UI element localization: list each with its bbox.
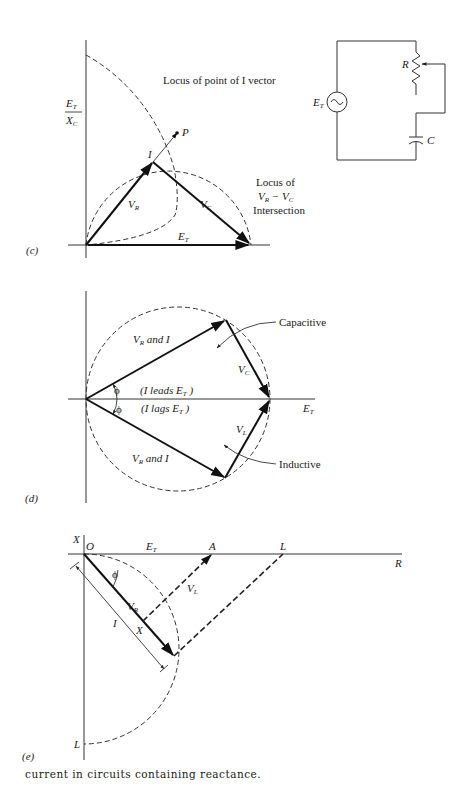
vr-vector [86,163,152,245]
panel-e: X O ET A L R ϕ VR VL I X L (e) [22,533,402,763]
locus-intersection-line1: Locus of [256,176,295,188]
panel-d: VR and I VR and I ϕ ϕ (I leads ET ) (I l… [25,291,326,505]
et-label: ET [302,402,315,416]
vl-label: VL [236,423,247,437]
et-label: ET [177,230,190,244]
resistor-label: R [401,58,409,70]
resistor-icon [412,52,420,95]
lower-vec-label: VR and I [132,452,170,466]
capacitive-label: Capacitive [279,316,326,328]
phi-label: ϕ [112,568,118,580]
phi-lower-label: ϕ [116,403,122,415]
capacitive-arrow-icon [217,322,276,348]
source-label: ET [312,96,325,110]
y-label-den: XC [65,114,78,128]
lags-label: (I lags ET ) [141,402,190,416]
i-vector [153,133,177,162]
capacitor-label: C [427,134,435,146]
wiper-loop-wire [416,64,445,137]
y-label-num: ET [65,97,78,111]
vc-vector [226,320,269,397]
upper-vec-label: VR and I [133,333,171,347]
figure-caption: current in circuits containing reactance… [25,768,261,780]
et-label: ET [145,540,158,554]
tip-to-L-dashed [174,554,283,656]
leads-label: (I leads ET ) [140,384,193,398]
vr-label: VR [128,198,140,212]
point-P-label: P [181,126,189,138]
point-L-bottom-label: L [73,738,80,750]
bottom-wire [337,112,416,160]
vc-label: VC [238,363,250,377]
panel-c: ET XC Locus of point of I vector P I VR … [26,40,305,258]
panel-c-tag: (c) [26,244,39,257]
vl-vector [143,555,211,621]
inductive-arrow-icon [224,445,276,464]
circuit-schematic: ET R C [312,41,445,160]
origin-O-label: O [86,540,94,552]
panel-d-tag: (d) [25,492,38,505]
I-label: I [112,617,118,629]
vl-vector [225,401,269,478]
locus-intersection-arc [86,171,251,245]
sine-wave-icon [331,100,343,105]
axis-R-label: R [394,557,402,569]
phi-upper-label: ϕ [114,384,120,396]
diagram-canvas: ET XC Locus of point of I vector P I VR … [0,0,463,791]
locus-intersection-line2: VR − VC [258,190,294,204]
axis-X-label: X [72,533,81,545]
point-I-label: I [147,148,153,160]
vc-label: VC [200,198,212,212]
point-P-dot [175,131,179,135]
panel-e-tag: (e) [22,750,35,763]
point-X-label: X [135,624,144,636]
inductive-label: Inductive [279,458,321,470]
locus-I-label: Locus of point of I vector [163,74,276,86]
locus-intersection-line3: Intersection [253,204,305,216]
point-L-top-label: L [279,540,286,552]
vl-label: VL [187,582,198,596]
point-A-label: A [208,540,216,552]
locus-arc [84,554,179,744]
vr-label: VR [127,600,139,614]
